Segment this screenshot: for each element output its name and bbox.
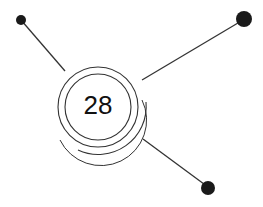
node-dot-top-right: [236, 11, 252, 27]
node-dot-bottom-right: [201, 181, 215, 195]
center-number: 28: [58, 90, 138, 120]
connector-top-right: [142, 20, 243, 80]
connector-top-left: [21, 20, 65, 71]
connector-bottom-right: [143, 139, 208, 187]
node-dot-top-left: [16, 15, 26, 25]
